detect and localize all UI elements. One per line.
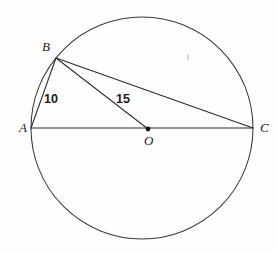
segment-bo [56, 58, 148, 129]
segment-bc [56, 58, 253, 128]
center-point-marker [146, 127, 151, 132]
geometry-canvas: A B C O 10 15 [0, 0, 278, 253]
vertex-label-a: A [18, 120, 27, 135]
measure-label-bo: 15 [116, 92, 130, 106]
image-artifact-speck [187, 54, 189, 60]
center-label-o: O [144, 133, 154, 148]
vertex-label-b: B [42, 39, 50, 54]
geometry-figure: A B C O 10 15 [0, 0, 278, 253]
measure-label-ab: 10 [44, 92, 58, 106]
vertex-label-c: C [260, 120, 269, 135]
